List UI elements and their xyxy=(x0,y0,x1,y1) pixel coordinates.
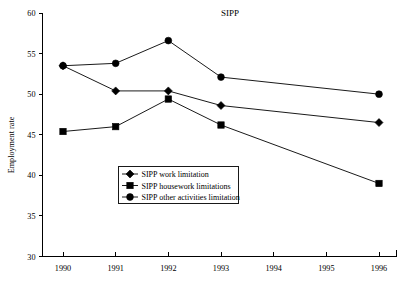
chart-canvas: SIPP Employment rate 30354045505560 1990… xyxy=(0,0,409,289)
data-point-marker xyxy=(375,119,383,127)
data-point-marker xyxy=(60,128,66,134)
y-tick-label: 30 xyxy=(27,253,35,262)
data-point-marker xyxy=(218,74,225,81)
data-point-marker xyxy=(165,37,172,44)
chart-title: SIPP xyxy=(221,8,239,18)
legend-item-label: SIPP housework limitations xyxy=(142,182,231,191)
chart-figure: SIPP Employment rate 30354045505560 1990… xyxy=(0,0,409,289)
data-point-marker xyxy=(217,102,225,110)
y-tick-label: 60 xyxy=(27,9,35,18)
y-tick-label: 40 xyxy=(27,171,35,180)
data-point-marker xyxy=(60,62,67,69)
data-series xyxy=(59,62,383,127)
legend-item-label: SIPP work limitation xyxy=(142,170,209,179)
y-tick-label: 45 xyxy=(27,131,35,140)
x-tick-label: 1990 xyxy=(55,264,71,273)
x-axis-ticks: 1990199119921993199419951996 xyxy=(55,252,387,273)
data-point-marker xyxy=(164,87,172,95)
data-point-marker xyxy=(112,60,119,67)
data-point-marker xyxy=(112,123,118,129)
chart-legend: SIPP work limitationSIPP housework limit… xyxy=(119,167,240,204)
data-point-marker xyxy=(376,91,383,98)
y-tick-label: 55 xyxy=(27,50,35,59)
data-point-marker xyxy=(376,180,382,186)
series-layer xyxy=(59,37,383,186)
data-point-marker xyxy=(165,96,171,102)
axes xyxy=(43,13,397,257)
x-tick-label: 1991 xyxy=(107,264,123,273)
x-tick-label: 1995 xyxy=(318,264,334,273)
x-tick-label: 1996 xyxy=(371,264,387,273)
data-point-marker xyxy=(218,122,224,128)
legend-sample-marker xyxy=(127,194,134,201)
series-line xyxy=(63,41,379,95)
y-axis-label: Employment rate xyxy=(7,116,16,173)
y-tick-label: 35 xyxy=(27,212,35,221)
legend-item-label: SIPP other activities limitation xyxy=(142,193,240,202)
data-point-marker xyxy=(112,87,120,95)
data-series xyxy=(60,37,383,97)
x-tick-label: 1994 xyxy=(265,264,281,273)
y-tick-label: 50 xyxy=(27,90,35,99)
y-axis-ticks: 30354045505560 xyxy=(27,9,42,262)
x-tick-label: 1992 xyxy=(160,264,176,273)
legend-sample-marker xyxy=(127,182,133,188)
x-tick-label: 1993 xyxy=(213,264,229,273)
